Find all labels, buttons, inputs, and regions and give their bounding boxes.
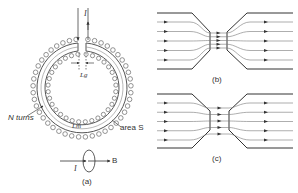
caption-b: (b) xyxy=(212,76,222,84)
caption-c: (c) xyxy=(212,155,221,163)
caption-a: (a) xyxy=(82,178,92,186)
gap-length-label: Lg xyxy=(80,72,87,79)
panel-b-flux xyxy=(157,20,293,61)
area-label: area S xyxy=(120,124,144,132)
field-label: B xyxy=(112,157,117,165)
toroid-core xyxy=(37,43,127,133)
turns-label: N turns xyxy=(8,114,34,122)
current-label: I xyxy=(84,10,87,18)
coil-turns-outer xyxy=(31,37,133,139)
coil-turns-inner xyxy=(46,52,118,124)
core-length-label: Lm xyxy=(72,123,81,130)
field-loop-diagram xyxy=(60,150,110,172)
loop-current-label: I xyxy=(74,165,77,173)
panel-c-flux xyxy=(157,101,293,141)
figure-canvas xyxy=(0,0,298,193)
